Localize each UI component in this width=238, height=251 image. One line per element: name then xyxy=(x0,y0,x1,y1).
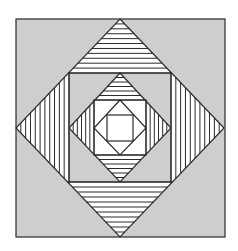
diagram-canvas xyxy=(0,0,238,251)
mid-inner-square xyxy=(94,100,146,155)
square-in-square-diagram xyxy=(0,0,238,251)
